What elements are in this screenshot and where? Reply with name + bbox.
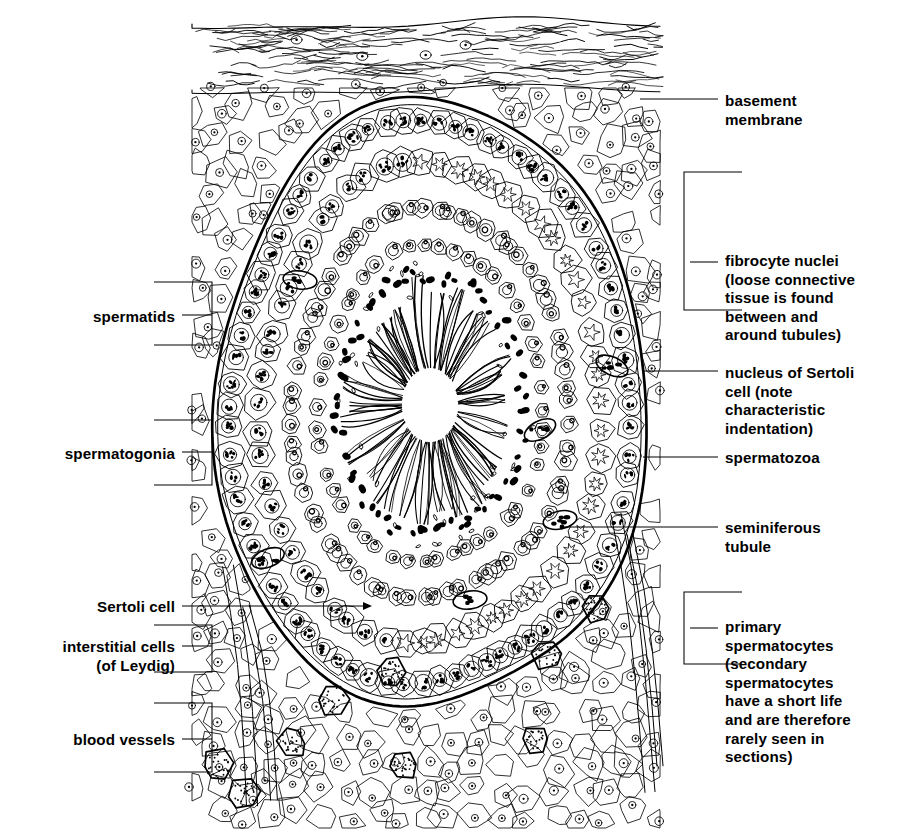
label-text-sertoli-cell: Sertoli cell: [97, 598, 175, 615]
label-text-spermatozoa: spermatozoa: [725, 449, 820, 466]
label-text-basement-membrane: basementmembrane: [725, 92, 803, 128]
histology-figure: basementmembranefibrocyte nuclei(loose c…: [0, 0, 900, 837]
seminiferous-tubule-plate: basementmembranefibrocyte nuclei(loose c…: [0, 0, 900, 837]
leader-dot: [560, 525, 565, 530]
label-text-spermatogonia: spermatogonia: [65, 445, 176, 462]
label-text-spermatids: spermatids: [93, 308, 175, 325]
label-text-blood-vessels: blood vessels: [73, 731, 175, 748]
